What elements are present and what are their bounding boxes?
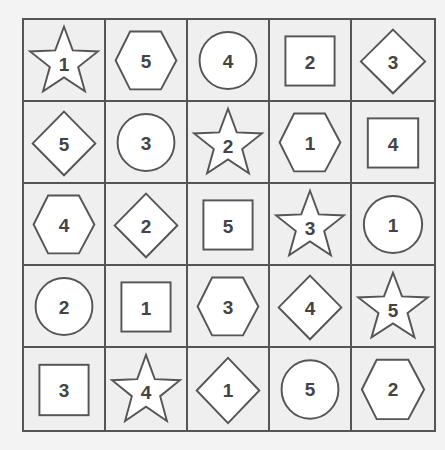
hexagon-icon	[352, 348, 434, 430]
square-icon	[270, 20, 350, 100]
grid-cell-r2-c1[interactable]: 5	[24, 102, 106, 184]
grid-cell-r2-c2[interactable]: 3	[106, 102, 188, 184]
grid-cell-r3-c2[interactable]: 2	[106, 184, 188, 266]
diamond-icon	[106, 184, 186, 264]
grid-cell-r2-c4[interactable]: 1	[270, 102, 352, 184]
hexagon-icon	[24, 184, 104, 264]
diamond-icon	[352, 20, 434, 100]
grid-cell-r5-c4[interactable]: 5	[270, 348, 352, 430]
grid-cell-r3-c3[interactable]: 5	[188, 184, 270, 266]
star-icon	[188, 102, 268, 182]
diamond-icon	[270, 266, 350, 346]
grid-cell-r1-c4[interactable]: 2	[270, 20, 352, 102]
square-icon	[24, 348, 104, 430]
circle-icon	[188, 20, 268, 100]
circle-icon	[106, 102, 186, 182]
grid-cell-r1-c5[interactable]: 3	[352, 20, 434, 102]
diamond-icon	[24, 102, 104, 182]
circle-icon	[270, 348, 350, 430]
grid-cell-r3-c4[interactable]: 3	[270, 184, 352, 266]
grid-cell-r4-c4[interactable]: 4	[270, 266, 352, 348]
hexagon-icon	[270, 102, 350, 182]
hexagon-icon	[188, 266, 268, 346]
square-icon	[188, 184, 268, 264]
diamond-icon	[188, 348, 268, 430]
grid-cell-r5-c1[interactable]: 3	[24, 348, 106, 430]
circle-icon	[24, 266, 104, 346]
circle-icon	[352, 184, 434, 264]
grid-cell-r4-c2[interactable]: 1	[106, 266, 188, 348]
grid-cell-r3-c1[interactable]: 4	[24, 184, 106, 266]
hexagon-icon	[106, 20, 186, 100]
grid-cell-r4-c5[interactable]: 5	[352, 266, 434, 348]
grid-cell-r3-c5[interactable]: 1	[352, 184, 434, 266]
star-icon	[106, 348, 186, 430]
grid-cell-r1-c2[interactable]: 5	[106, 20, 188, 102]
square-icon	[352, 102, 434, 182]
grid-cell-r1-c1[interactable]: 1	[24, 20, 106, 102]
grid-cell-r5-c5[interactable]: 2	[352, 348, 434, 430]
grid-cell-r4-c1[interactable]: 2	[24, 266, 106, 348]
grid-cell-r2-c3[interactable]: 2	[188, 102, 270, 184]
square-icon	[106, 266, 186, 346]
grid-cell-r4-c3[interactable]: 3	[188, 266, 270, 348]
puzzle-grid: 1542353214425312134534152	[22, 18, 436, 432]
star-icon	[24, 20, 104, 100]
grid-cell-r5-c3[interactable]: 1	[188, 348, 270, 430]
star-icon	[270, 184, 350, 264]
grid-cell-r5-c2[interactable]: 4	[106, 348, 188, 430]
grid-cell-r2-c5[interactable]: 4	[352, 102, 434, 184]
star-icon	[352, 266, 434, 346]
grid-cell-r1-c3[interactable]: 4	[188, 20, 270, 102]
